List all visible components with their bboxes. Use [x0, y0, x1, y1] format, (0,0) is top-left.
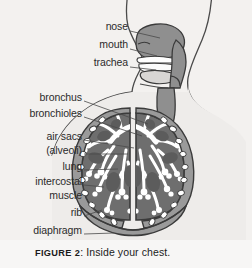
label-muscle: muscle: [49, 189, 82, 201]
figure-caption-text: : Inside your chest.: [80, 246, 170, 258]
label-trachea: trachea: [94, 56, 128, 68]
label-rib: rib: [71, 206, 82, 218]
label-lung: lung: [63, 160, 82, 172]
label-mouth: mouth: [99, 38, 128, 50]
figure-caption: FIGURE 2: Inside your chest.: [0, 240, 252, 268]
figure-container: nose mouth trachea bronchus bronchioles …: [0, 0, 252, 268]
label-intercostal: intercostal: [35, 175, 82, 187]
figure-number: FIGURE 2: [35, 248, 80, 258]
label-diaphragm: diaphragm: [33, 224, 82, 236]
upper-airway: [136, 24, 186, 88]
label-alveoli: (alveoli): [46, 144, 82, 156]
anatomy-illustration: nose mouth trachea bronchus bronchioles …: [0, 0, 252, 240]
label-bronchus: bronchus: [40, 91, 82, 103]
label-bronchioles: bronchioles: [29, 107, 82, 119]
label-air-sacs: air sacs: [47, 130, 82, 142]
label-nose: nose: [106, 20, 128, 32]
